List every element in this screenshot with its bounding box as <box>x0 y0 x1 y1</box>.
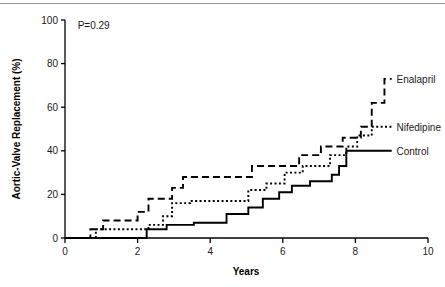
x-tick-label-10: 10 <box>422 246 434 257</box>
curves-group <box>65 79 392 238</box>
y-tick-label-60: 60 <box>47 102 59 113</box>
annotation-group: P=0.29 <box>78 20 110 31</box>
curve-control <box>65 151 392 238</box>
y-tick-group: 020406080100 <box>41 15 65 244</box>
y-tick-label-0: 0 <box>52 233 58 244</box>
series-label-control: Control <box>397 146 429 157</box>
y-axis-title: Aortic-Valve Replacement (%) <box>11 58 22 199</box>
series-label-enalapril: Enalapril <box>397 74 436 85</box>
x-tick-group: 0246810 <box>62 238 434 257</box>
x-tick-label-8: 8 <box>353 246 359 257</box>
y-tick-label-100: 100 <box>41 15 58 26</box>
x-tick-label-0: 0 <box>62 246 68 257</box>
figure-container: 020406080100 0246810 EnalaprilNifedipine… <box>0 0 445 287</box>
y-tick-label-80: 80 <box>47 58 59 69</box>
x-tick-label-6: 6 <box>280 246 286 257</box>
series-label-nifedipine: Nifedipine <box>397 122 442 133</box>
kaplan-meier-chart: 020406080100 0246810 EnalaprilNifedipine… <box>0 0 445 287</box>
axes-group <box>65 20 428 238</box>
series-label-group: EnalaprilNifedipineControl <box>397 74 442 157</box>
annotation-p-value: P=0.29 <box>78 20 110 31</box>
x-tick-label-2: 2 <box>135 246 141 257</box>
y-tick-label-40: 40 <box>47 145 59 156</box>
x-axis-title: Years <box>233 266 260 277</box>
x-tick-label-4: 4 <box>207 246 213 257</box>
y-tick-label-20: 20 <box>47 189 59 200</box>
